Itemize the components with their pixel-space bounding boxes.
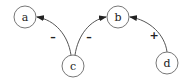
node-d: d [156,52,178,74]
edge-label-c-b: – [86,31,92,44]
svg-text:c: c [70,60,76,73]
node-b: b [107,6,129,28]
edge-label-d-b: + [149,29,158,42]
svg-text:d: d [163,57,170,70]
node-c: c [62,55,84,77]
edge-label-c-a: – [50,31,56,44]
svg-text:a: a [22,11,29,24]
svg-text:b: b [114,11,121,24]
node-a: a [14,6,36,28]
diagram-canvas: – – + a b c d [0,0,188,82]
graph-svg: – – + a b c d [0,0,188,82]
